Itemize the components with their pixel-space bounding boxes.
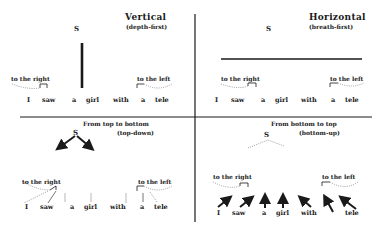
horizontal-word: a xyxy=(331,97,335,104)
bottomup-right-bracket xyxy=(322,182,330,186)
vertical-word: a xyxy=(141,97,145,104)
vertical-root: S xyxy=(74,25,79,32)
topdown-line-tele xyxy=(150,192,157,202)
vertical-subtitle: (depth-first) xyxy=(126,24,167,30)
topdown-arrow-right xyxy=(77,136,90,147)
vertical-word: with xyxy=(113,97,129,104)
bottomup-arrow-a2 xyxy=(326,199,333,212)
horizontal-title: Horizontal xyxy=(309,13,366,22)
topdown-arrow-left xyxy=(60,136,75,147)
topdown-word: saw xyxy=(40,204,53,211)
vertical-title: Vertical xyxy=(125,13,166,22)
vertical-right-bracket-dotted xyxy=(144,84,172,88)
horizontal-right-bracket xyxy=(330,83,338,87)
horizontal-subtitle: (breath-first) xyxy=(309,24,353,30)
diagram-graphics xyxy=(0,0,382,231)
parsing-strategies-diagram: Vertical (depth-first) S to the right to… xyxy=(0,0,382,231)
topdown-root: S xyxy=(73,129,78,136)
vertical-left-bracket xyxy=(40,84,47,88)
topdown-line-saw xyxy=(48,191,56,203)
vertical-left-bracket-dotted xyxy=(12,84,40,89)
topdown-title: From top to bottom xyxy=(83,121,149,127)
horizontal-right-bracket-dotted xyxy=(338,83,364,86)
bottomup-word: saw xyxy=(232,210,245,217)
topdown-left-bracket xyxy=(50,186,56,190)
topdown-word: a xyxy=(70,204,74,211)
bottomup-word: I xyxy=(217,210,220,217)
vertical-word: a xyxy=(72,97,76,104)
horizontal-left-bracket xyxy=(248,83,256,87)
horizontal-word: I xyxy=(215,97,218,104)
horizontal-word: girl xyxy=(275,97,288,104)
bottomup-left-bracket-dotted xyxy=(213,182,240,187)
horizontal-root: S xyxy=(266,25,271,32)
topdown-right-bracket-dotted xyxy=(144,186,172,190)
bottomup-left-label: to the right xyxy=(213,174,252,180)
bottomup-word: a xyxy=(262,210,266,217)
vertical-word: girl xyxy=(86,97,99,104)
topdown-left-label: to the right xyxy=(22,179,61,185)
horizontal-left-bracket-dotted xyxy=(221,84,248,88)
horizontal-right-label: to the left xyxy=(330,76,363,82)
topdown-word: a xyxy=(140,204,144,211)
topdown-word: girl xyxy=(84,204,97,211)
bottomup-arrow-saw xyxy=(240,199,250,207)
horizontal-word: a xyxy=(261,97,265,104)
vertical-right-label: to the left xyxy=(137,76,170,82)
horizontal-word: saw xyxy=(231,97,244,104)
bottomup-root-dotted xyxy=(248,140,284,148)
bottomup-subtitle: (bottom-up) xyxy=(299,130,340,136)
vertical-right-bracket xyxy=(137,84,144,88)
horizontal-word: tele xyxy=(345,97,359,104)
bottomup-root: S xyxy=(264,131,269,138)
bottomup-arrow-with xyxy=(302,199,311,207)
horizontal-word: with xyxy=(301,97,317,104)
vertical-word: tele xyxy=(155,97,169,104)
bottomup-title: From bottom to top xyxy=(271,121,337,127)
bottomup-arrow-tele xyxy=(343,199,356,209)
bottomup-right-bracket-dotted xyxy=(330,182,358,187)
topdown-line-I xyxy=(24,191,48,203)
bottomup-left-bracket xyxy=(240,183,248,187)
vertical-left-label: to the right xyxy=(11,76,50,82)
horizontal-left-label: to the right xyxy=(221,76,260,82)
topdown-word: tele xyxy=(154,204,168,211)
vertical-word: I xyxy=(27,97,30,104)
bottomup-right-label: to the left xyxy=(322,174,355,180)
bottomup-word: with xyxy=(301,210,317,217)
topdown-right-bracket xyxy=(137,186,144,191)
topdown-right-label: to the left xyxy=(138,179,171,185)
topdown-word: with xyxy=(110,204,126,211)
vertical-word: saw xyxy=(42,97,55,104)
bottomup-arrow-I xyxy=(218,199,228,207)
topdown-subtitle: (top-down) xyxy=(117,130,154,136)
bottomup-word: girl xyxy=(276,210,289,217)
bottomup-word: tele xyxy=(345,210,359,217)
topdown-word: I xyxy=(25,204,28,211)
